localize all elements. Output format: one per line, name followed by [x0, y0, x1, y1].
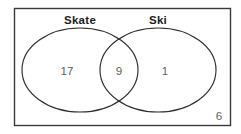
skate-only-count: 17 — [61, 65, 74, 77]
universal-set-rectangle — [15, 9, 231, 126]
ski-set-label: Ski — [149, 14, 167, 26]
outside-count: 6 — [216, 110, 222, 122]
venn-diagram-figure: Skate Ski 17 9 1 6 — [0, 0, 241, 134]
skate-set-label: Skate — [64, 14, 96, 26]
ski-only-count: 1 — [162, 65, 168, 77]
intersection-count: 9 — [116, 65, 122, 77]
venn-diagram-canvas: Skate Ski 17 9 1 6 — [0, 0, 241, 134]
